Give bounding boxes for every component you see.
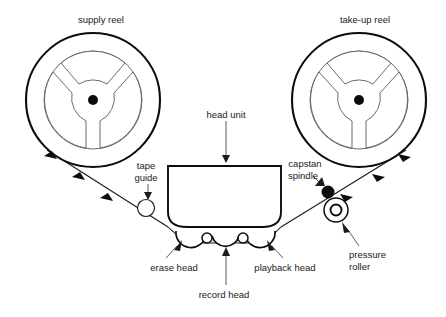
supply-reel-hub [88,95,98,105]
take-up-reel-label: take-up reel [340,14,390,25]
tape-guide-label-line2: guide [134,172,157,183]
capstan-spindle-label-line1: capstan [288,158,321,169]
diagram-canvas: supply reel take-up reel [0,0,446,317]
record-head-leader-arrow [222,247,230,256]
record-head-element [212,236,239,246]
pressure-roller-leader-arrow [342,222,350,233]
direction-arrow-right-2 [372,174,385,182]
take-up-reel-hub [354,95,364,105]
pressure-roller-label-line1: pressure [349,249,386,260]
playback-head-leader-line [272,246,283,258]
head-unit-leader-arrow [222,155,230,163]
record-head-leader [222,247,230,285]
erase-head-leader-line [166,246,177,258]
pressure-roller-label-line2: roller [349,261,370,272]
pressure-roller-leader-line [348,230,359,246]
supply-reel[interactable] [26,33,160,167]
take-up-reel[interactable] [292,33,426,167]
pressure-roller[interactable] [324,198,348,222]
tape-guide-leader-arrow [144,192,152,200]
supply-reel-label: supply reel [78,14,124,25]
capstan-spindle[interactable] [322,186,335,199]
pressure-roller-inner [331,205,342,216]
tape-transport-diagram: supply reel take-up reel [0,0,446,317]
head-unit-body [168,166,281,227]
erase-head-label: erase head [150,262,198,273]
head-unit[interactable] [168,166,281,248]
direction-arrow-left-3 [100,193,113,201]
tape-guide[interactable] [138,200,155,217]
tape-guide-leader [144,184,152,200]
tape-guide-label-line1: tape [137,160,156,171]
head-unit-leader [222,121,230,163]
record-head-label: record head [199,289,250,300]
head-unit-label: head unit [206,109,245,120]
pressure-roller-leader [342,222,359,246]
direction-arrow-right-3 [398,154,411,162]
playback-head-label: playback head [254,262,315,273]
capstan-spindle-label-line2: spindle [288,170,318,181]
head-unit-guide-roller-right [238,233,248,243]
head-unit-guide-roller-left [202,233,212,243]
